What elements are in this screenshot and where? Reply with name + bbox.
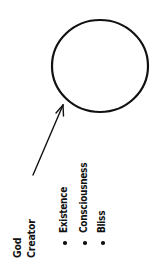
arrow-icon bbox=[33, 105, 64, 175]
list-item-label: Existence bbox=[59, 187, 69, 233]
list-item-label: Bliss bbox=[97, 211, 107, 233]
label-creator: Creator bbox=[26, 219, 37, 258]
bullet-icon bbox=[101, 241, 105, 245]
list-item-label: Consciousness bbox=[79, 163, 89, 233]
diagram-canvas: God Creator Existence Consciousness Blis… bbox=[0, 0, 160, 268]
circle-shape bbox=[52, 20, 148, 112]
label-god: God bbox=[12, 238, 23, 258]
bullet-icon bbox=[63, 241, 67, 245]
bullet-icon bbox=[83, 241, 87, 245]
